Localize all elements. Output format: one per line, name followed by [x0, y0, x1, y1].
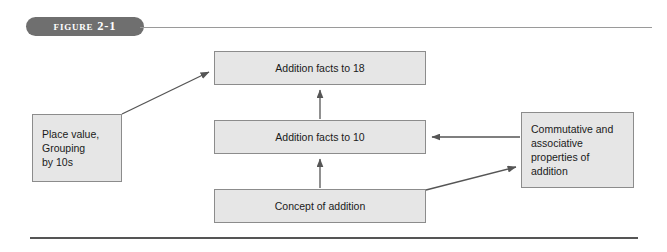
node-commutative-associative-label: Commutative and associative properties o… [531, 122, 613, 178]
node-place-value-label: Place value, Grouping by 10s [42, 127, 99, 169]
node-addition-facts-18: Addition facts to 18 [214, 51, 426, 85]
node-addition-facts-18-label: Addition facts to 18 [275, 61, 364, 75]
figure-footer-rule [30, 237, 638, 239]
node-concept-of-addition-label: Concept of addition [275, 199, 365, 213]
node-addition-facts-10: Addition facts to 10 [214, 120, 426, 154]
edge-place-to-facts18 [122, 72, 209, 114]
figure-header-rule [140, 27, 652, 28]
node-concept-of-addition: Concept of addition [214, 189, 426, 223]
figure-label-text: Figure 2-1 [54, 20, 117, 33]
figure-container: Figure 2-1 Place value, Grouping by 10s … [0, 0, 667, 252]
node-addition-facts-10-label: Addition facts to 10 [275, 130, 364, 144]
edge-concept-to-props [426, 167, 516, 190]
node-place-value: Place value, Grouping by 10s [32, 114, 122, 182]
node-commutative-associative: Commutative and associative properties o… [521, 112, 634, 188]
figure-label-pill: Figure 2-1 [26, 17, 144, 36]
